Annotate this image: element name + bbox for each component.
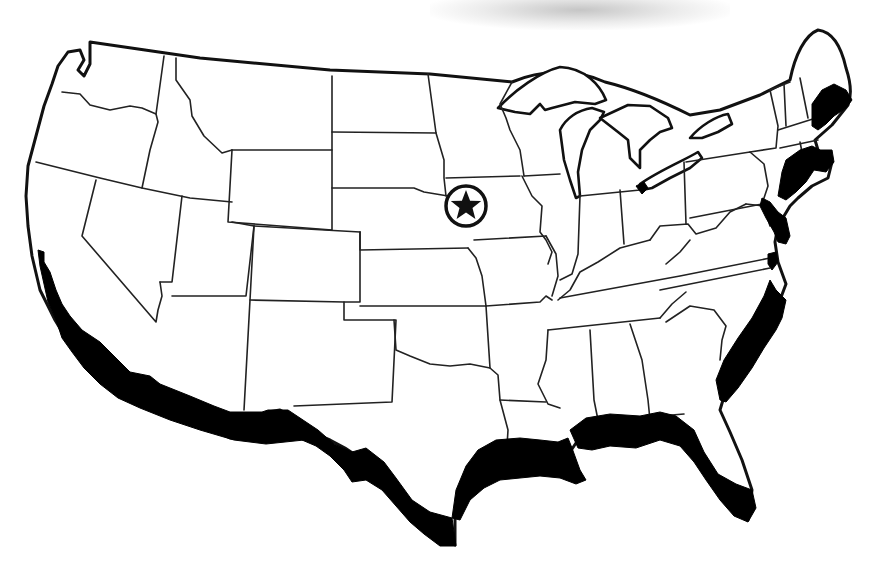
us-map <box>0 0 880 575</box>
us-outline <box>26 30 850 545</box>
star-marker <box>446 186 486 226</box>
